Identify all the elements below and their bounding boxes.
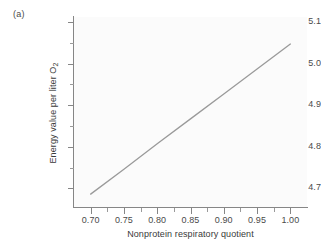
x-tick-major (257, 208, 258, 214)
x-tick-minor (274, 208, 275, 212)
y-tick-major (68, 64, 74, 65)
x-tick-major (157, 208, 158, 214)
data-line (74, 17, 307, 207)
y-tick-minor (70, 43, 74, 44)
x-tick-minor (174, 208, 175, 212)
panel-label: (a) (13, 9, 25, 19)
x-tick-minor (107, 208, 108, 212)
figure-panel-a: (a) 4.74.84.95.05.1 0.700.750.800.850.90… (0, 0, 321, 250)
y-tick-label: 4.8 (275, 141, 321, 151)
y-tick-major (68, 22, 74, 23)
y-tick-minor (70, 84, 74, 85)
y-tick-major (68, 105, 74, 106)
y-axis-spine (73, 16, 74, 208)
x-tick-minor (141, 208, 142, 212)
y-tick-label: 4.7 (275, 182, 321, 192)
plot-area (74, 17, 307, 207)
y-axis-title-subscript: 2 (52, 63, 59, 67)
x-tick-major (91, 208, 92, 214)
y-axis-title: Energy value per liter O2 (48, 18, 58, 208)
x-tick-major (124, 208, 125, 214)
y-tick-major (68, 147, 74, 148)
x-tick-major (191, 208, 192, 214)
y-tick-minor (70, 168, 74, 169)
x-tick-minor (207, 208, 208, 212)
x-axis-title: Nonprotein respiratory quotient (74, 229, 307, 239)
y-tick-minor (70, 126, 74, 127)
x-tick-major (224, 208, 225, 214)
y-tick-label: 4.9 (275, 99, 321, 109)
x-tick-major (290, 208, 291, 214)
y-tick-label: 5.1 (275, 16, 321, 26)
y-tick-major (68, 188, 74, 189)
x-tick-minor (240, 208, 241, 212)
x-tick-label: 1.00 (270, 215, 310, 225)
y-tick-label: 5.0 (275, 58, 321, 68)
series-line-energy-value (91, 44, 291, 194)
